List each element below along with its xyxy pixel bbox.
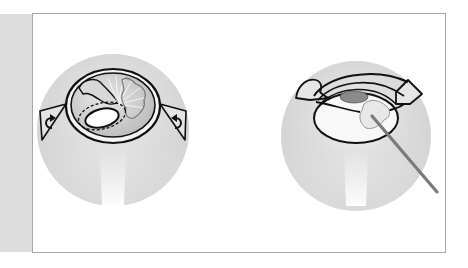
lens-nucleus [340, 91, 368, 103]
right-eye-diagram [281, 61, 437, 211]
eye-surgery-illustration [0, 0, 468, 268]
left-eye-diagram [37, 54, 189, 206]
